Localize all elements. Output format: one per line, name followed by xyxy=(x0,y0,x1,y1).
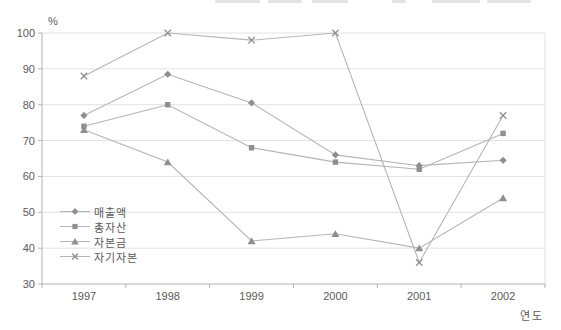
data-point-square xyxy=(165,102,170,107)
data-point-diamond xyxy=(164,71,171,78)
x-tick-label: 1999 xyxy=(239,290,263,302)
x-tick-label: 2001 xyxy=(407,290,431,302)
legend-item-total-assets: 총자산 xyxy=(60,219,138,234)
data-point-triangle xyxy=(499,194,507,201)
legend-item-capital: 자본금 xyxy=(60,234,138,249)
y-tick-label: 60 xyxy=(23,170,35,182)
legend-label: 자본금 xyxy=(94,234,127,250)
legend-item-sales: 매출액 xyxy=(60,204,138,219)
y-tick-label: 70 xyxy=(23,135,35,147)
x-tick-label: 1998 xyxy=(156,290,180,302)
data-point-square xyxy=(249,145,254,150)
x-tick-label: 2000 xyxy=(323,290,347,302)
legend-label: 자기자본 xyxy=(94,249,138,265)
data-point-diamond xyxy=(80,112,87,119)
plot-svg: 3040506070809010019971998199920002001200… xyxy=(0,0,561,330)
data-point-diamond xyxy=(499,157,506,164)
data-point-triangle xyxy=(164,158,172,165)
data-point-square xyxy=(500,131,505,136)
x-tick-label: 2002 xyxy=(491,290,515,302)
y-tick-label: 80 xyxy=(23,99,35,111)
chart-screenshot: 3040506070809010019971998199920002001200… xyxy=(0,0,561,330)
y-axis-unit-label: % xyxy=(48,15,58,27)
y-tick-label: 50 xyxy=(23,206,35,218)
diamond-marker-icon xyxy=(60,206,90,217)
y-tick-label: 30 xyxy=(23,278,35,290)
legend-label: 매출액 xyxy=(94,204,127,220)
x-marker-icon xyxy=(60,251,90,262)
data-point-diamond xyxy=(248,99,255,106)
triangle-marker-icon xyxy=(60,236,90,247)
data-point-square xyxy=(333,159,338,164)
series-line xyxy=(84,105,503,170)
y-tick-label: 90 xyxy=(23,63,35,75)
data-point-triangle xyxy=(80,126,88,133)
data-point-square xyxy=(417,167,422,172)
legend-item-equity: 자기자본 xyxy=(60,249,138,264)
series-line xyxy=(84,33,503,262)
series-line xyxy=(84,74,503,165)
y-tick-label: 100 xyxy=(17,27,35,39)
series-line xyxy=(84,130,503,248)
square-marker-icon xyxy=(60,221,90,232)
data-point-diamond xyxy=(332,151,339,158)
y-tick-label: 40 xyxy=(23,242,35,254)
x-axis-title: 연도 xyxy=(520,307,544,323)
x-tick-label: 1997 xyxy=(72,290,96,302)
legend-label: 총자산 xyxy=(94,219,127,235)
legend: 매출액 총자산 자본금 자기자본 xyxy=(60,204,138,264)
